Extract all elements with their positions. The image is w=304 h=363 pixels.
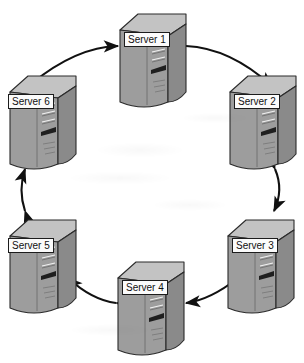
- server-node-label: Server 1: [124, 32, 170, 47]
- server-node-3[interactable]: Server 3: [224, 216, 300, 320]
- server-tower-icon: [226, 72, 302, 176]
- server-tower-icon: [6, 72, 82, 176]
- server-node-5[interactable]: Server 5: [6, 216, 82, 320]
- ring-topology-diagram: Server 1: [0, 0, 304, 363]
- server-node-label: Server 6: [8, 94, 54, 109]
- server-node-label: Server 5: [8, 238, 54, 253]
- server-tower-icon: [6, 216, 82, 320]
- server-node-label: Server 3: [232, 238, 278, 253]
- server-tower-icon: [224, 216, 300, 320]
- server-node-label: Server 4: [122, 280, 168, 295]
- server-tower-icon: [114, 258, 190, 362]
- server-node-label: Server 2: [234, 94, 280, 109]
- server-node-4[interactable]: Server 4: [114, 258, 190, 362]
- server-node-6[interactable]: Server 6: [6, 72, 82, 176]
- server-tower-icon: [116, 10, 192, 114]
- server-node-2[interactable]: Server 2: [226, 72, 302, 176]
- server-node-1[interactable]: Server 1: [116, 10, 192, 114]
